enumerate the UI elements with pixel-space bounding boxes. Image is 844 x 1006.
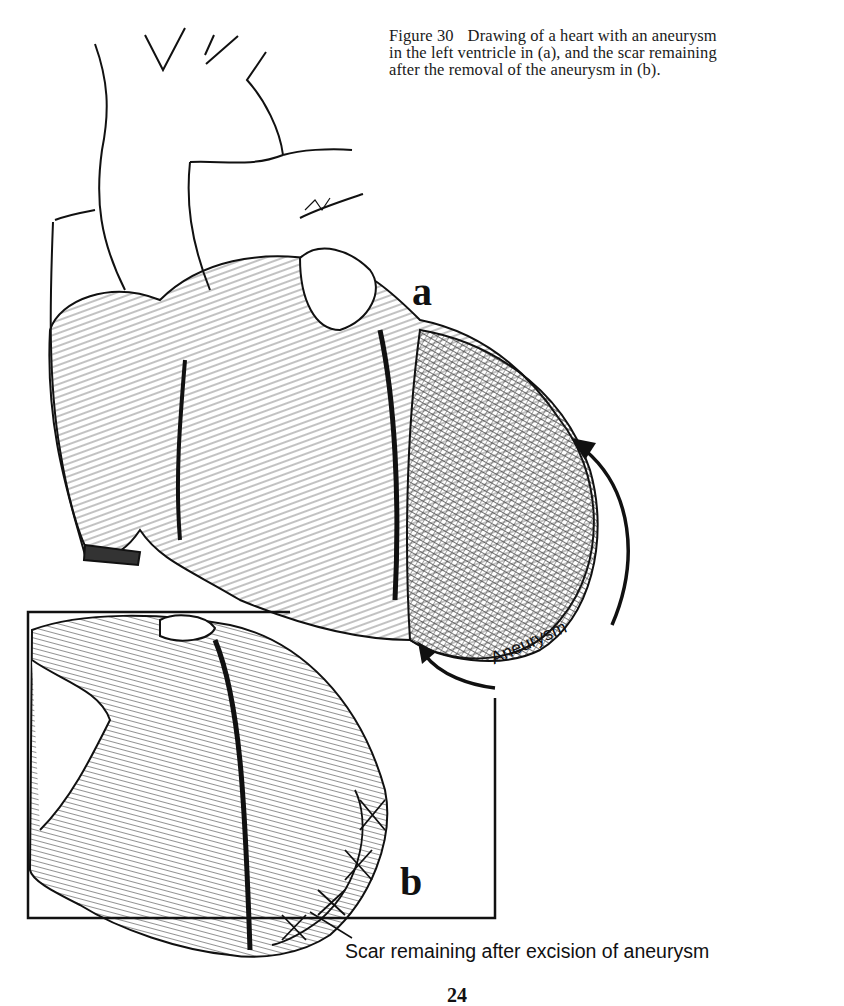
heart-a bbox=[49, 249, 597, 661]
panel-label-b: b bbox=[400, 858, 422, 905]
caption-line-2: in the left ventricle in (a), and the sc… bbox=[389, 44, 839, 61]
caption-line-1: Figure 30Drawing of a heart with an aneu… bbox=[389, 27, 839, 44]
panel-label-a: a bbox=[412, 268, 432, 315]
page-number: 24 bbox=[447, 984, 467, 1006]
heart-b bbox=[30, 615, 387, 956]
signature-mark bbox=[305, 198, 330, 210]
caption-line-3: after the removal of the aneurysm in (b)… bbox=[389, 61, 839, 78]
scar-label: Scar remaining after excision of aneurys… bbox=[345, 940, 709, 963]
figure-caption: Figure 30Drawing of a heart with an aneu… bbox=[389, 27, 839, 78]
